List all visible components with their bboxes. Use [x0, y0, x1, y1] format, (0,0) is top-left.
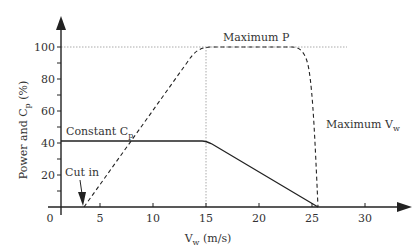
x-axis-arrow-icon: [397, 202, 412, 212]
x-tick-label: 30: [358, 212, 372, 225]
y-tick-label: 100: [34, 41, 55, 54]
x-tick-label: 20: [252, 212, 266, 225]
x-axis-title: Vw (m/s): [184, 232, 232, 247]
cut-in-label: Cut in: [65, 166, 99, 179]
x-tick-label: 15: [199, 212, 213, 225]
power-curve-chart: 20 40 60 80 100 0 5 10 15 20 25 30 Vw (m…: [0, 0, 420, 251]
y-axis-title: Power and Cp (%): [17, 81, 32, 180]
y-tick-label: 40: [41, 137, 55, 150]
y-tick-label: 20: [41, 169, 55, 182]
y-axis-arrow-icon: [56, 16, 66, 30]
cut-in-arrow: [80, 180, 82, 194]
y-tick-label: 60: [41, 105, 55, 118]
cut-in-arrowhead-icon: [78, 192, 86, 206]
y-tick-label: 80: [41, 73, 55, 86]
x-tick-label: 0: [47, 212, 54, 225]
maximum-vw-label: Maximum Vw: [326, 118, 400, 133]
x-tick-label: 5: [97, 212, 104, 225]
x-tick-label: 25: [305, 212, 319, 225]
maximum-p-label: Maximum P: [223, 31, 290, 44]
cp-curve: [61, 141, 318, 207]
x-tick-label: 10: [146, 212, 160, 225]
constant-cp-label: Constant Cp: [66, 125, 133, 140]
